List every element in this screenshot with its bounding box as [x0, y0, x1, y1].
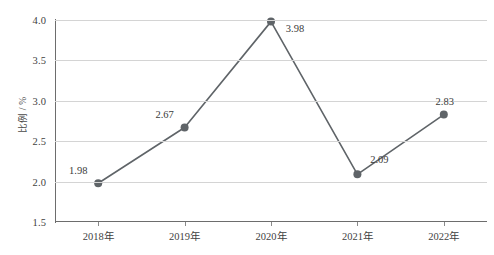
x-tick-mark	[357, 222, 358, 226]
x-tick-label: 2021年	[342, 228, 373, 243]
x-tick-mark	[98, 222, 99, 226]
series-line-比例	[55, 20, 487, 222]
gridline	[55, 182, 487, 183]
data-point-marker[interactable]	[94, 179, 102, 187]
y-tick-label: 3.0	[33, 95, 46, 106]
x-tick-label: 2020年	[256, 228, 287, 243]
plot-area	[55, 20, 487, 222]
line-chart: 比例 / % 1.52.02.53.03.54.0 2018年2019年2020…	[0, 0, 494, 255]
series-polyline	[98, 22, 444, 184]
data-point-marker[interactable]	[181, 123, 189, 131]
gridline	[55, 20, 487, 21]
y-tick-label: 2.0	[33, 176, 46, 187]
y-axis-tick-labels: 1.52.02.53.03.54.0	[0, 0, 52, 255]
x-tick-mark	[185, 222, 186, 226]
x-tick-label: 2019年	[169, 228, 200, 243]
gridline	[55, 101, 487, 102]
x-tick-label: 2022年	[428, 228, 459, 243]
y-tick-label: 4.0	[33, 15, 46, 26]
y-tick-label: 3.5	[33, 55, 46, 66]
gridline	[55, 141, 487, 142]
y-tick-label: 1.5	[33, 217, 46, 228]
data-point-marker[interactable]	[267, 18, 275, 26]
y-tick-label: 2.5	[33, 136, 46, 147]
x-tick-mark	[444, 222, 445, 226]
data-point-marker[interactable]	[440, 111, 448, 119]
gridline	[55, 60, 487, 61]
x-tick-label: 2018年	[83, 228, 114, 243]
data-point-marker[interactable]	[353, 170, 361, 178]
x-tick-mark	[271, 222, 272, 226]
x-axis-tick-labels: 2018年2019年2020年2021年2022年	[55, 228, 487, 250]
